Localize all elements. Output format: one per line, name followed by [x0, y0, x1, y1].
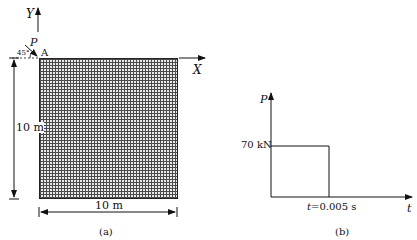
t-axis-label: t [407, 203, 411, 214]
p-axis-label: P [260, 94, 267, 105]
load-value-label: 70 kN [241, 140, 272, 150]
duration-label: t=0.005 s [307, 202, 356, 212]
caption-b: (b) [335, 227, 349, 237]
pulse-curve [271, 146, 329, 197]
duration-label-value: =0.005 s [311, 201, 356, 212]
